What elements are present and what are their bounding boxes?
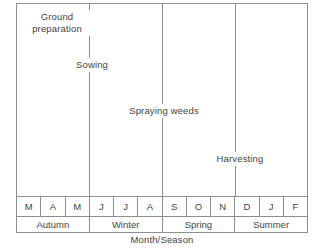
x-axis-label: Month/Season xyxy=(16,234,308,245)
season-cell: Summer xyxy=(235,217,307,232)
month-cell: F xyxy=(284,197,307,216)
month-cell: J xyxy=(114,197,138,216)
month-cell: J xyxy=(90,197,114,216)
season-cell: Autumn xyxy=(17,217,90,232)
month-cell: N xyxy=(211,197,235,216)
season-cell: Spring xyxy=(163,217,236,232)
month-cell: M xyxy=(17,197,41,216)
month-cell: A xyxy=(138,197,162,216)
month-axis-row: MAMJJASONDJF xyxy=(16,196,308,217)
month-cell: J xyxy=(260,197,284,216)
ground-preparation-line1: Ground xyxy=(41,11,74,22)
month-cell: A xyxy=(41,197,65,216)
ground-preparation-line2: preparation xyxy=(32,23,82,34)
month-cell: M xyxy=(66,197,90,216)
month-cell: O xyxy=(187,197,211,216)
season-cell: Winter xyxy=(90,217,163,232)
event-marker-line-harvesting xyxy=(235,3,236,217)
event-label-ground-preparation: Ground preparation xyxy=(21,10,93,36)
month-cell: D xyxy=(235,197,259,216)
event-label-harvesting: Harvesting xyxy=(214,152,267,166)
crop-calendar-chart: Operation/Activity Ground preparation So… xyxy=(0,0,320,250)
event-label-spraying-weeds: Spraying weeds xyxy=(126,104,202,118)
season-axis-row: AutumnWinterSpringSummer xyxy=(16,216,308,233)
month-cell: S xyxy=(163,197,187,216)
event-label-sowing: Sowing xyxy=(73,58,111,72)
